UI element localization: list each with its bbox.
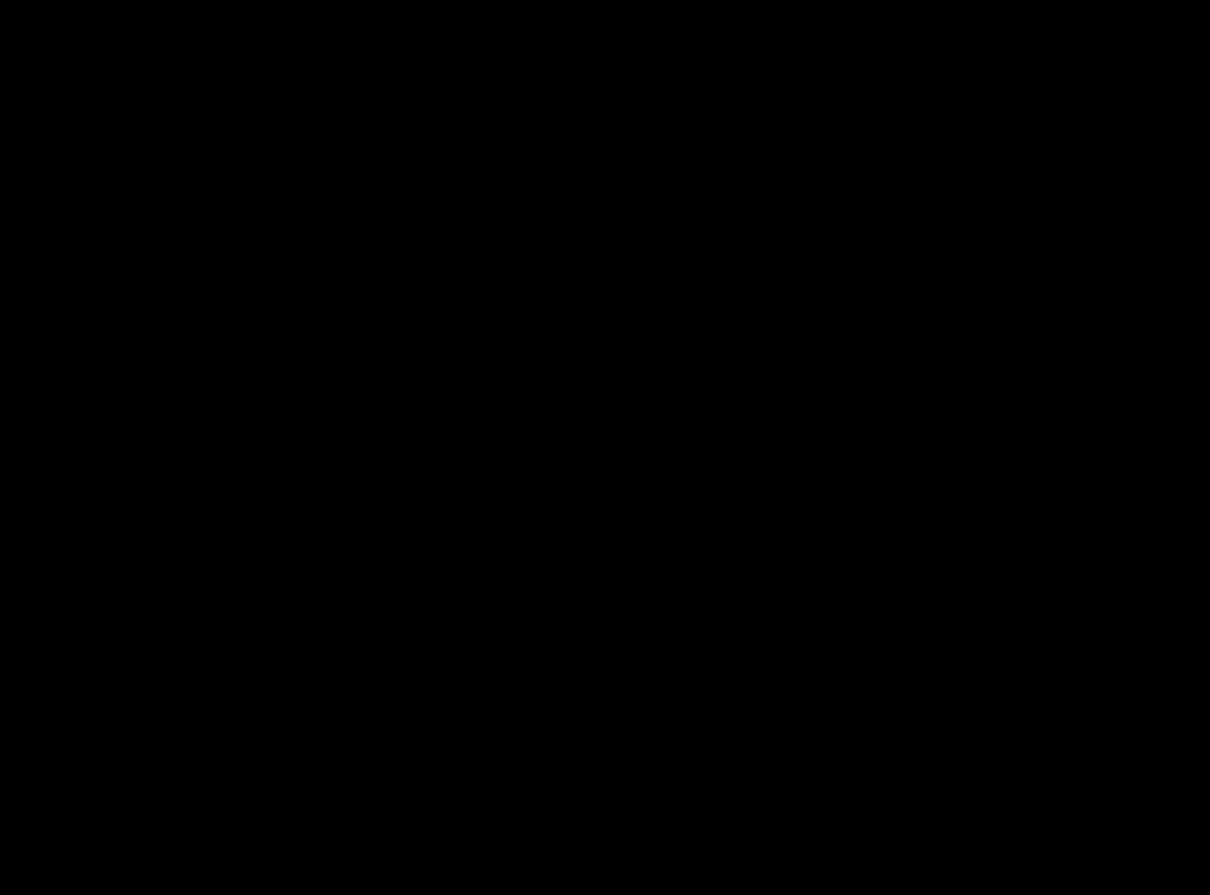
page-canvas xyxy=(0,0,1210,895)
page-background xyxy=(0,0,1210,895)
drawing-surface xyxy=(0,0,1210,895)
